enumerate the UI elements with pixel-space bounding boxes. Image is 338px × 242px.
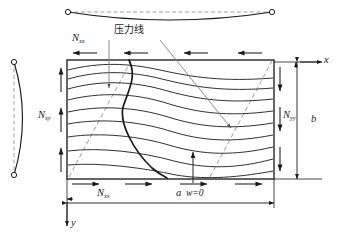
force-label-top-nxx: Nxx [72,33,84,44]
contour-line [68,83,273,101]
pressure-line-label: 压力线 [114,25,144,35]
left-beam [11,59,22,177]
dimension-a-label: a [176,188,181,199]
dimension-b-label: b [311,114,316,125]
top-beam-left-pin-icon [65,9,70,14]
contour-line [68,73,273,90]
force-subscript: xx [79,37,84,44]
force-label-right-nyy: Nyy [283,110,295,121]
contour-line [68,135,273,153]
force-symbol: N [38,109,45,120]
plate-boundary [67,60,274,179]
contour-line [68,95,273,114]
contour-line [68,64,273,79]
top-beam-deflected-curve [68,12,272,20]
force-label-left-nxy: Nxy [38,110,50,121]
force-label-bottom-nxx: Nxx [97,188,109,199]
y-axis-label: y [71,218,76,229]
contour-line [68,164,273,177]
force-symbol: N [283,109,290,120]
force-subscript: yy [290,114,295,121]
left-beam-deflected-curve [14,62,23,175]
force-subscript: xy [45,114,50,121]
x-axis-label: x [324,55,329,66]
force-symbol: N [97,187,104,198]
nodal-line-curve [122,60,167,178]
deflection-contours [68,64,273,177]
left-beam-bottom-pin-icon [11,172,16,177]
x-axis [274,62,322,68]
force-subscript: xx [104,192,109,199]
nodal-line-label: w=0 [186,189,204,199]
left-beam-top-pin-icon [11,59,16,64]
top-beam-right-pin-icon [269,9,274,14]
plate-buckling-figure: 压力线 Nxx Nxy Nyy Nxx a b x y w=0 [0,0,338,242]
top-beam [65,9,274,20]
force-symbol: N [72,32,79,43]
contour-line [68,121,273,140]
dashed-diagonal-left [69,61,131,177]
